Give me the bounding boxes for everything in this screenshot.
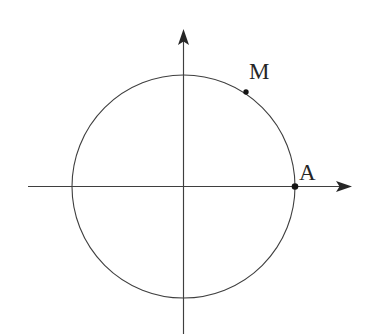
point-m-label: M	[249, 60, 269, 83]
unit-circle-figure: M A	[0, 0, 368, 334]
point-m-marker	[243, 89, 248, 94]
point-a-label: A	[299, 161, 316, 184]
point-a-marker	[292, 183, 299, 190]
